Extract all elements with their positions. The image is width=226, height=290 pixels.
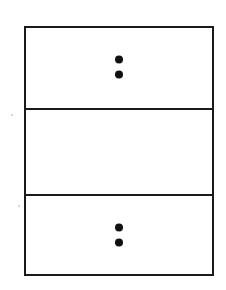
stray-mark [11, 114, 13, 116]
dot [115, 71, 123, 79]
vertical-ellipsis-icon [114, 224, 124, 249]
dot [115, 224, 123, 232]
dot [115, 56, 123, 64]
stacked-box [24, 26, 214, 276]
bottom-section [26, 194, 212, 276]
diagram-canvas [0, 0, 226, 290]
top-section [26, 28, 212, 108]
middle-section [26, 108, 212, 194]
stray-mark [18, 205, 20, 207]
vertical-ellipsis-icon [114, 56, 124, 81]
dot [115, 239, 123, 247]
